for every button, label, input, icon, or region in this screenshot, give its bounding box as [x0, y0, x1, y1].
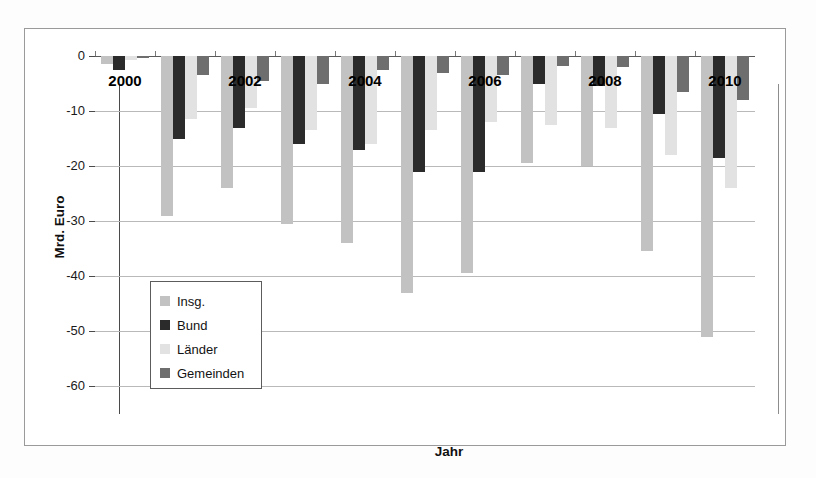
- x-axis-year-label-2004: 2004: [348, 72, 381, 89]
- bar-lnder-2007: [545, 56, 557, 125]
- legend-swatch-icon: [160, 344, 170, 354]
- bar-lnder-2005: [425, 56, 437, 130]
- y-axis-tick-label: -30: [27, 213, 85, 228]
- y-axis-tick-label: -40: [27, 268, 85, 283]
- bar-insg-2005: [401, 56, 413, 293]
- x-axis-year-label-2000: 2000: [108, 72, 141, 89]
- y-axis-tick-mark: [89, 386, 95, 387]
- bar-lnder-2009: [665, 56, 677, 155]
- legend-item-gemeinden: Gemeinden: [160, 361, 261, 385]
- bar-lnder-2006: [485, 56, 497, 122]
- y-axis-tick-mark: [89, 56, 95, 57]
- bar-lnder-2001: [185, 56, 197, 119]
- gridline: [95, 166, 755, 167]
- figure-frame: Mrd. Euro Jahr 0-10-20-30-40-50-60 20002…: [24, 28, 786, 446]
- bar-bund-2007: [533, 56, 545, 84]
- legend-item-lnder: Länder: [160, 337, 261, 361]
- y-axis-tick-mark: [89, 276, 95, 277]
- bar-gemeinden-2000: [137, 56, 149, 58]
- bar-lnder-2008: [605, 56, 617, 128]
- bar-gemeinden-2008: [617, 56, 629, 67]
- legend-swatch-icon: [160, 296, 170, 306]
- bar-lnder-2004: [365, 56, 377, 144]
- legend-swatch-icon: [160, 320, 170, 330]
- bar-bund-2002: [233, 56, 245, 128]
- bar-bund-2003: [293, 56, 305, 144]
- y-axis-tick-mark: [89, 111, 95, 112]
- x-axis-year-label-2002: 2002: [228, 72, 261, 89]
- gridline: [95, 221, 755, 222]
- legend-swatch-icon: [160, 368, 170, 378]
- gridline: [95, 276, 755, 277]
- legend-label: Gemeinden: [177, 367, 244, 380]
- bar-gemeinden-2009: [677, 56, 689, 92]
- y-axis-tick-label: 0: [27, 48, 85, 63]
- bar-gemeinden-2004: [377, 56, 389, 70]
- bar-insg-2001: [161, 56, 173, 216]
- x-axis-tick-mark: [335, 51, 336, 56]
- x-axis-tick-mark: [695, 51, 696, 56]
- x-axis-tick-mark: [395, 51, 396, 56]
- bar-bund-2001: [173, 56, 185, 139]
- y-axis-tick-label: -60: [27, 378, 85, 393]
- chart-page: Mrd. Euro Jahr 0-10-20-30-40-50-60 20002…: [0, 0, 816, 478]
- y-axis-tick-mark: [89, 331, 95, 332]
- x-axis-year-label-2010: 2010: [708, 72, 741, 89]
- x-axis-tick-mark: [95, 51, 96, 56]
- bar-insg-2009: [641, 56, 653, 251]
- bar-bund-2004: [353, 56, 365, 150]
- bar-lnder-2003: [305, 56, 317, 130]
- x-axis-tick-mark: [515, 51, 516, 56]
- chart-legend: Insg.BundLänderGemeinden: [150, 281, 262, 389]
- legend-label: Länder: [177, 343, 217, 356]
- bar-gemeinden-2001: [197, 56, 209, 75]
- x-axis-tick-mark: [635, 51, 636, 56]
- x-axis-year-label-2006: 2006: [468, 72, 501, 89]
- x-axis-tick-mark: [575, 51, 576, 56]
- bar-insg-2007: [521, 56, 533, 163]
- x-axis-title: Jahr: [435, 444, 464, 459]
- x-axis-year-label-2008: 2008: [588, 72, 621, 89]
- bar-gemeinden-2007: [557, 56, 569, 66]
- bar-bund-2009: [653, 56, 665, 114]
- bar-gemeinden-2003: [317, 56, 329, 84]
- bar-insg-2000: [101, 56, 113, 64]
- legend-label: Insg.: [177, 295, 205, 308]
- plot-right-border: [778, 84, 779, 414]
- bar-bund-2005: [413, 56, 425, 172]
- bar-gemeinden-2005: [437, 56, 449, 73]
- bar-lnder-2000: [125, 56, 137, 60]
- x-axis-tick-mark: [155, 51, 156, 56]
- y-axis-tick-mark: [89, 221, 95, 222]
- legend-item-insg: Insg.: [160, 289, 261, 313]
- y-axis-tick-label: -50: [27, 323, 85, 338]
- x-axis-tick-mark: [455, 51, 456, 56]
- bar-bund-2000: [113, 56, 125, 70]
- y-axis-tick-label: -20: [27, 158, 85, 173]
- bar-insg-2010: [701, 56, 713, 337]
- legend-item-bund: Bund: [160, 313, 261, 337]
- x-axis-tick-mark: [215, 51, 216, 56]
- x-axis-tick-mark: [275, 51, 276, 56]
- bar-insg-2003: [281, 56, 293, 224]
- y-axis-tick-label: -10: [27, 103, 85, 118]
- y-axis-tick-mark: [89, 166, 95, 167]
- legend-label: Bund: [177, 319, 207, 332]
